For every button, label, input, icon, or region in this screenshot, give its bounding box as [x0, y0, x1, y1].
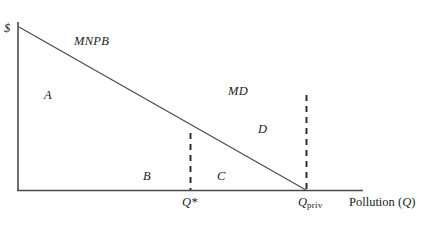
x-axis-title-variable: Q: [402, 195, 411, 209]
q-priv-variable: Q: [298, 195, 307, 209]
figure-canvas: $ MNPB A MD D B C Q* Qpriv Pollution (Q): [0, 0, 425, 228]
x-axis-title-text: Pollution (: [349, 195, 402, 209]
q-priv-subscript: priv: [307, 200, 322, 210]
q-star-tick-label: Q*: [182, 196, 197, 209]
region-d-label: D: [258, 123, 267, 136]
q-star-variable: Q: [182, 195, 191, 209]
diagram-svg: [0, 0, 425, 228]
y-axis-dollar-label: $: [4, 22, 10, 35]
mnpb-curve: [19, 27, 306, 190]
region-b-label: B: [143, 170, 151, 183]
x-axis-title: Pollution (Q): [349, 196, 415, 209]
q-star-asterisk: *: [191, 195, 197, 209]
region-a-label: A: [44, 89, 52, 102]
x-axis-title-close: ): [411, 195, 415, 209]
q-priv-tick-label: Qpriv: [298, 196, 322, 210]
region-c-label: C: [217, 170, 225, 183]
marginal-damage-label: MD: [228, 85, 248, 98]
mnpb-curve-label: MNPB: [74, 35, 109, 48]
